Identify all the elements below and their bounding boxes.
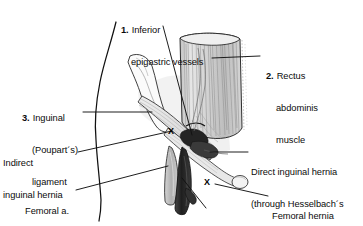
- label-femoral-hernia: Femoral hernia: [272, 190, 334, 226]
- label-inferior-epigastric-line1-text: Inferior: [132, 25, 161, 35]
- label-femoral-hernia-line1: Femoral hernia: [272, 211, 334, 222]
- label-femoral-vein: Femoral v.: [209, 209, 252, 226]
- label-inguinal-line1-text: Inguinal: [33, 113, 65, 123]
- label-rectus-line2: abdominis: [276, 103, 318, 114]
- label-indirect-line1: Indirect: [3, 158, 63, 169]
- label-direct-line1: Direct inguinal hernia: [251, 167, 343, 178]
- label-inferior-epigastric-line2: epigastric vessels: [131, 57, 203, 68]
- label-rectus-line3: muscle: [276, 135, 318, 146]
- label-number-1: 1.: [121, 25, 129, 35]
- label-rectus-line1-text: Rectus: [277, 71, 306, 81]
- body-contour: [95, 22, 116, 221]
- femoral-hernia-x-marker: X: [204, 178, 210, 187]
- indirect-hernia-x-marker: X: [168, 127, 174, 136]
- label-inferior-epigastric-vessels: 1.Inferior epigastric vessels: [121, 4, 203, 89]
- anatomy-figure-page: X X 1.Inferior epigastric vessels 2.Rect…: [0, 0, 363, 226]
- leader-femoral-artery: [76, 166, 168, 190]
- label-femoral-artery-line1: Femoral a.: [25, 206, 69, 217]
- label-number-2: 2.: [266, 71, 274, 81]
- label-femoral-artery: Femoral a.: [25, 185, 69, 226]
- leader-indirect-hernia: [78, 131, 172, 152]
- label-number-3: 3.: [22, 113, 30, 123]
